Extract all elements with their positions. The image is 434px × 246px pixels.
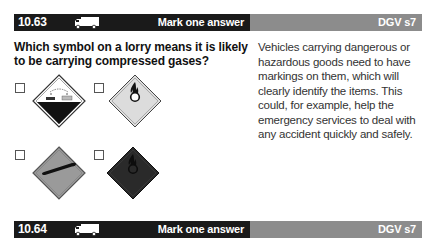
category-code: DGV s7: [378, 223, 416, 235]
question-header-dark: 10.64 Mark one answer: [14, 221, 250, 238]
question-header-grey: DGV s7: [250, 14, 422, 31]
question-number: 10.63: [18, 15, 47, 29]
question-header-bar: 10.64 Mark one answer DGV s7: [14, 221, 422, 238]
question-text: Which symbol on a lorry means it is like…: [14, 40, 249, 68]
mark-instruction: Mark one answer: [158, 223, 244, 235]
lorry-icon: [74, 17, 100, 29]
compressed-gas-cylinder-sign[interactable]: [32, 146, 86, 200]
corrosive-hazard-sign[interactable]: [32, 74, 86, 128]
mark-instruction: Mark one answer: [158, 16, 244, 28]
option-c-checkbox[interactable]: [15, 150, 25, 160]
question-header-dark: 10.63 Mark one answer: [14, 14, 250, 31]
question-header-grey: DGV s7: [250, 221, 422, 238]
flame-over-circle-dark-sign[interactable]: [106, 146, 160, 200]
question-number: 10.64: [18, 222, 47, 236]
option-a-checkbox[interactable]: [15, 83, 25, 93]
explanation-text: Vehicles carrying dangerous or hazardous…: [258, 40, 430, 142]
option-d-checkbox[interactable]: [94, 150, 104, 160]
option-b-checkbox[interactable]: [94, 83, 104, 93]
category-code: DGV s7: [378, 16, 416, 28]
oxidising-agent-sign[interactable]: [108, 74, 162, 128]
lorry-icon: [74, 224, 100, 236]
question-header-bar: 10.63 Mark one answer DGV s7: [14, 14, 422, 31]
